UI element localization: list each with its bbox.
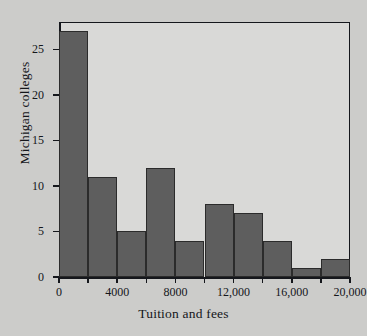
x-tick-mark	[58, 277, 60, 283]
x-tick-mark	[146, 277, 148, 283]
x-tick-mark	[262, 277, 264, 283]
y-tick-mark	[53, 140, 59, 142]
y-tick-mark	[53, 94, 59, 96]
histogram-bar	[234, 213, 263, 277]
x-tick-mark	[349, 277, 351, 283]
x-tick-mark	[204, 277, 206, 283]
y-tick-label: 5	[14, 225, 44, 237]
x-tick-mark	[87, 277, 89, 283]
histogram-bar	[88, 177, 117, 277]
x-tick-mark	[175, 277, 177, 283]
bars-container	[59, 22, 350, 277]
x-tick-mark	[116, 277, 118, 283]
histogram-bar	[292, 268, 321, 277]
x-tick-mark	[291, 277, 293, 283]
histogram-bar	[117, 231, 146, 277]
histogram-bar	[263, 241, 292, 277]
y-axis-title: Michigan colleges	[17, 33, 33, 193]
y-tick-mark	[53, 231, 59, 233]
y-tick-mark	[53, 49, 59, 51]
histogram-bar	[205, 204, 234, 277]
x-tick-mark	[320, 277, 322, 283]
x-tick-mark	[233, 277, 235, 283]
histogram-figure: 0510152025 04000800012,00016,00020,000 M…	[0, 0, 367, 336]
x-axis-title: Tuition and fees	[0, 306, 367, 322]
y-tick-mark	[53, 185, 59, 187]
histogram-bar	[175, 241, 204, 277]
histogram-bar	[146, 168, 175, 277]
histogram-bar	[321, 259, 350, 277]
y-tick-label: 0	[14, 271, 44, 283]
histogram-bar	[59, 31, 88, 277]
x-tick-label: 20,000	[310, 286, 367, 298]
